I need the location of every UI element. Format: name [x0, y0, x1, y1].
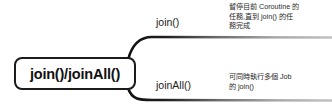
root-node[interactable]: join()/joinAll()	[14, 57, 136, 90]
root-node-label: join()/joinAll()	[30, 66, 120, 82]
description-line: 暫停目前 Coroutine 的	[229, 2, 325, 12]
branch-label-joinall[interactable]: joinAll()	[156, 79, 191, 91]
branch-connector-join	[128, 37, 332, 60]
mindmap-diagram: join()/joinAll() join() joinAll() 暫停目前 C…	[0, 0, 332, 109]
description-line: 的 join()	[229, 82, 325, 92]
branch-description-joinall: 可同時執行多個 Job 的 join()	[229, 72, 325, 91]
description-line: 可同時執行多個 Job	[229, 72, 325, 82]
branch-description-join: 暫停目前 Coroutine 的 任務,直到 join() 的任 務完成	[229, 2, 325, 31]
branch-label-join[interactable]: join()	[156, 16, 179, 28]
description-line: 務完成	[229, 21, 325, 31]
description-line: 任務,直到 join() 的任	[229, 12, 325, 22]
